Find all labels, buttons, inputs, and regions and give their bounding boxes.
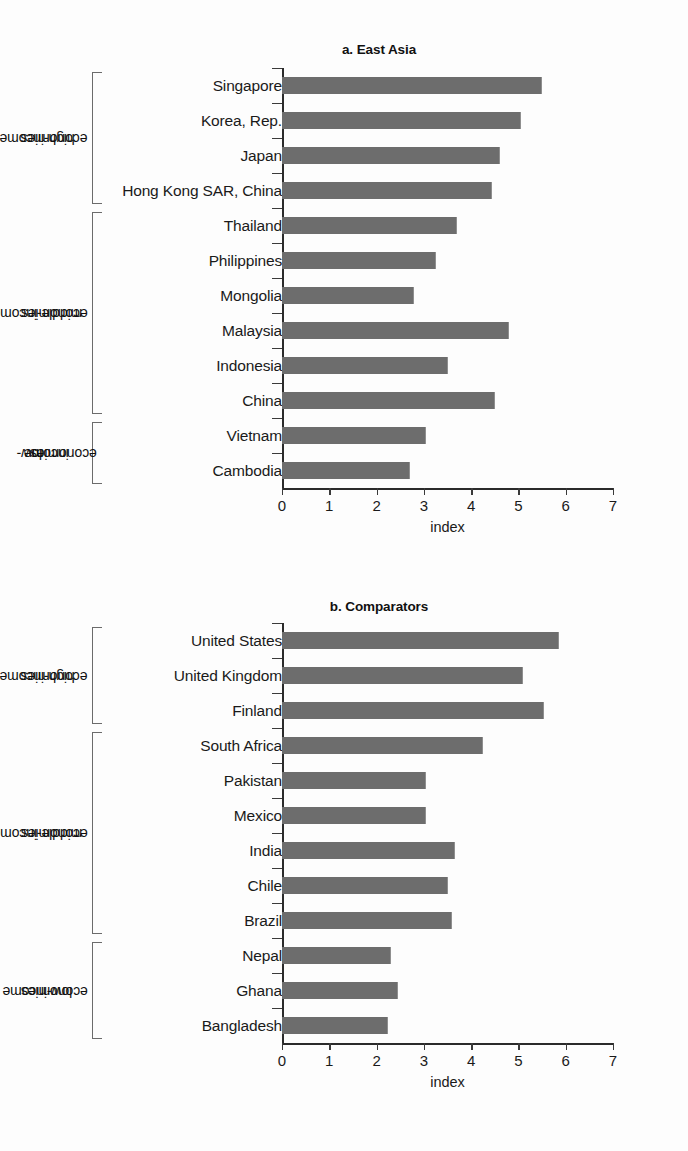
income-group-bracket	[92, 212, 102, 414]
bar-rows: United StatesUnited KingdomFinlandSouth …	[0, 623, 688, 1043]
x-axis-line	[282, 1043, 613, 1045]
bar-track	[282, 348, 688, 383]
x-axis-tick-label: 0	[278, 1052, 286, 1069]
bar-track	[282, 903, 688, 938]
bar	[282, 77, 542, 94]
x-axis-tick-label: 4	[467, 1052, 475, 1069]
bar-track	[282, 313, 688, 348]
x-axis-tick	[518, 1043, 519, 1050]
y-axis-tick	[272, 348, 282, 349]
bar-track	[282, 103, 688, 138]
x-axis-tick	[566, 1043, 567, 1050]
bar	[282, 287, 414, 304]
y-axis-tick	[272, 938, 282, 939]
x-axis-tick-label: 7	[609, 1052, 617, 1069]
bar-row: Mexico	[0, 798, 688, 833]
x-axis-tick	[471, 488, 472, 495]
category-label: South Africa	[200, 728, 282, 763]
x-axis-tick-label: 6	[562, 1052, 570, 1069]
bar-track	[282, 868, 688, 903]
y-axis-tick	[272, 173, 282, 174]
chart-a-title: a. East Asia	[0, 42, 688, 57]
bar-row: Chile	[0, 868, 688, 903]
x-axis-tick-label: 3	[420, 497, 428, 514]
x-axis-tick-label: 5	[514, 497, 522, 514]
x-axis-tick-label: 4	[467, 497, 475, 514]
y-axis-tick	[272, 208, 282, 209]
y-axis-tick	[272, 383, 282, 384]
income-group-bracket	[92, 422, 102, 484]
bar	[282, 807, 426, 824]
bar-track	[282, 453, 688, 488]
y-axis-tick	[272, 623, 282, 624]
bar	[282, 182, 492, 199]
bar-row: Philippines	[0, 243, 688, 278]
y-axis-tick	[272, 103, 282, 104]
category-label: Mexico	[234, 798, 282, 833]
y-axis-tick	[272, 418, 282, 419]
category-label: Thailand	[224, 208, 282, 243]
bar-row: Malaysia	[0, 313, 688, 348]
bar-row: Cambodia	[0, 453, 688, 488]
x-axis-tick	[329, 1043, 330, 1050]
category-label: Vietnam	[226, 418, 282, 453]
income-group-bracket	[92, 732, 102, 934]
y-axis-tick	[272, 1008, 282, 1009]
x-axis-tick	[377, 1043, 378, 1050]
category-label: Singapore	[213, 68, 282, 103]
y-axis-tick	[272, 763, 282, 764]
x-axis-title: index	[282, 1074, 613, 1090]
x-axis-tick-label: 6	[562, 497, 570, 514]
x-axis-tick-label: 5	[514, 1052, 522, 1069]
x-axis-tick-label: 2	[372, 1052, 380, 1069]
x-axis-tick	[282, 488, 283, 495]
x-axis-tick	[424, 488, 425, 495]
y-axis-tick	[272, 278, 282, 279]
bar	[282, 427, 426, 444]
x-axis-title: index	[282, 519, 613, 535]
bar-row: Thailand	[0, 208, 688, 243]
y-axis-tick	[272, 313, 282, 314]
bar-track	[282, 658, 688, 693]
x-axis-tick	[613, 1043, 614, 1050]
category-label: Ghana	[236, 973, 282, 1008]
income-group-bracket	[92, 627, 102, 724]
bar-track	[282, 798, 688, 833]
category-label: Brazil	[244, 903, 282, 938]
y-axis-tick	[272, 138, 282, 139]
category-label: United Kingdom	[174, 658, 282, 693]
chart-b-title: b. Comparators	[0, 599, 688, 614]
bar-row: Bangladesh	[0, 1008, 688, 1043]
x-axis-tick	[282, 1043, 283, 1050]
bar-row: Ghana	[0, 973, 688, 1008]
category-label: Chile	[247, 868, 282, 903]
category-label: China	[242, 383, 282, 418]
bar	[282, 1017, 388, 1034]
x-axis-line	[282, 488, 613, 490]
bar	[282, 877, 448, 894]
category-label: Mongolia	[220, 278, 282, 313]
bar-rows: SingaporeKorea, Rep.JapanHong Kong SAR, …	[0, 68, 688, 488]
income-group-bracket	[92, 942, 102, 1039]
category-label: United States	[191, 623, 282, 658]
bar-track	[282, 1008, 688, 1043]
bar	[282, 947, 391, 964]
chart-panel-east-asia: a. East Asia SingaporeKorea, Rep.JapanHo…	[0, 30, 688, 560]
y-axis-tick	[272, 868, 282, 869]
bar	[282, 322, 509, 339]
bar-row: United Kingdom	[0, 658, 688, 693]
x-axis-tick	[377, 488, 378, 495]
bar-track	[282, 68, 688, 103]
x-axis-tick	[329, 488, 330, 495]
bar-row: United States	[0, 623, 688, 658]
bar-track	[282, 208, 688, 243]
bar-track	[282, 973, 688, 1008]
category-label: Nepal	[242, 938, 282, 973]
category-label: Finland	[232, 693, 282, 728]
bar-track	[282, 278, 688, 313]
x-axis-tick	[424, 1043, 425, 1050]
bar	[282, 112, 521, 129]
bar-track	[282, 138, 688, 173]
y-axis-tick	[272, 693, 282, 694]
category-label: Cambodia	[213, 453, 282, 488]
